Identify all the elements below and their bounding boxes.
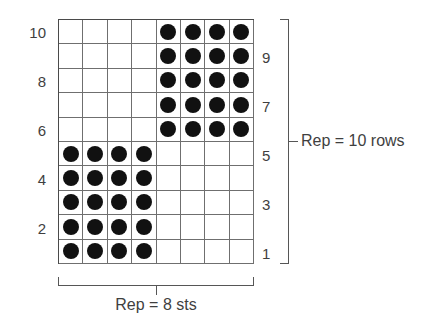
row-number-right-1: 1 bbox=[262, 246, 270, 261]
grid-cell bbox=[230, 240, 254, 264]
grid-cell bbox=[108, 118, 132, 142]
row-number-right-3: 3 bbox=[262, 197, 270, 212]
grid-cell-filled bbox=[157, 93, 181, 117]
grid-cell bbox=[157, 142, 181, 166]
grid-cell-filled bbox=[132, 240, 156, 264]
grid-cell bbox=[108, 69, 132, 93]
grid-cell-filled bbox=[205, 93, 229, 117]
sts-repeat-label: Rep = 8 sts bbox=[58, 297, 254, 313]
grid-cell bbox=[230, 191, 254, 215]
row-number-left-6: 6 bbox=[38, 123, 46, 138]
grid-cell-filled bbox=[59, 142, 83, 166]
grid-cell-filled bbox=[59, 191, 83, 215]
grid-cell-filled bbox=[205, 69, 229, 93]
grid-cell-filled bbox=[230, 93, 254, 117]
grid-cell-filled bbox=[230, 44, 254, 68]
rows-repeat-bracket bbox=[280, 19, 289, 264]
grid-cell-filled bbox=[230, 20, 254, 44]
grid-cell bbox=[205, 215, 229, 239]
grid-cell bbox=[205, 142, 229, 166]
row-number-left-8: 8 bbox=[38, 74, 46, 89]
grid-cell bbox=[157, 166, 181, 190]
row-number-left-4: 4 bbox=[38, 172, 46, 187]
grid-cell-filled bbox=[108, 240, 132, 264]
grid-cell bbox=[59, 118, 83, 142]
grid-cell-filled bbox=[132, 191, 156, 215]
grid-cell bbox=[83, 69, 107, 93]
grid-cell-filled bbox=[230, 118, 254, 142]
grid-cell bbox=[59, 20, 83, 44]
grid-cell-filled bbox=[181, 93, 205, 117]
knitting-chart-figure: 10 8 6 4 2 9 7 5 3 1 Rep = 10 rows Rep =… bbox=[0, 0, 435, 328]
grid-cell-filled bbox=[108, 166, 132, 190]
grid-cell-filled bbox=[83, 191, 107, 215]
grid-cell bbox=[132, 44, 156, 68]
grid-cell bbox=[132, 118, 156, 142]
grid-cell bbox=[83, 93, 107, 117]
rows-repeat-bracket-tick bbox=[289, 141, 298, 142]
grid-cell-filled bbox=[205, 20, 229, 44]
grid-cell-filled bbox=[132, 166, 156, 190]
grid-cell-filled bbox=[205, 118, 229, 142]
grid-cell-filled bbox=[181, 69, 205, 93]
grid-cell-filled bbox=[83, 142, 107, 166]
grid-cell-filled bbox=[157, 20, 181, 44]
row-number-left-10: 10 bbox=[29, 25, 46, 40]
grid-cell-filled bbox=[83, 240, 107, 264]
grid-cell-filled bbox=[157, 44, 181, 68]
grid-cell-filled bbox=[108, 142, 132, 166]
sts-repeat-bracket bbox=[58, 277, 254, 286]
grid-cell bbox=[230, 142, 254, 166]
grid-cell bbox=[157, 240, 181, 264]
grid-cell-filled bbox=[181, 44, 205, 68]
grid-cell bbox=[108, 44, 132, 68]
sts-repeat-bracket-tick bbox=[156, 286, 157, 295]
grid-cell-filled bbox=[59, 240, 83, 264]
grid-cell-filled bbox=[108, 191, 132, 215]
grid-cell bbox=[132, 93, 156, 117]
grid-cell bbox=[83, 20, 107, 44]
grid-cell-filled bbox=[132, 142, 156, 166]
row-number-right-7: 7 bbox=[262, 99, 270, 114]
grid-cell bbox=[205, 166, 229, 190]
grid-cell bbox=[181, 166, 205, 190]
grid-cell-filled bbox=[59, 215, 83, 239]
grid-cell bbox=[181, 142, 205, 166]
row-number-right-9: 9 bbox=[262, 50, 270, 65]
grid-cell bbox=[157, 215, 181, 239]
row-number-left-2: 2 bbox=[38, 221, 46, 236]
pattern-grid bbox=[58, 19, 254, 264]
grid-cell bbox=[83, 44, 107, 68]
grid-cell-filled bbox=[181, 118, 205, 142]
grid-cell bbox=[205, 240, 229, 264]
grid-cell-filled bbox=[132, 215, 156, 239]
grid-cell-filled bbox=[205, 44, 229, 68]
grid-cell bbox=[205, 191, 229, 215]
grid-cell bbox=[59, 44, 83, 68]
grid-cell-filled bbox=[108, 215, 132, 239]
grid-cell bbox=[157, 191, 181, 215]
grid-cell-filled bbox=[83, 166, 107, 190]
grid-cell-filled bbox=[181, 20, 205, 44]
grid-cell bbox=[108, 93, 132, 117]
grid-cell-filled bbox=[83, 215, 107, 239]
grid-cell bbox=[132, 20, 156, 44]
row-number-right-5: 5 bbox=[262, 148, 270, 163]
grid-cell-filled bbox=[157, 69, 181, 93]
grid-cell-filled bbox=[59, 166, 83, 190]
grid-cell bbox=[230, 166, 254, 190]
grid-cell bbox=[181, 240, 205, 264]
grid-cell bbox=[230, 215, 254, 239]
grid-cell bbox=[59, 69, 83, 93]
grid-cell-filled bbox=[230, 69, 254, 93]
grid-cell bbox=[83, 118, 107, 142]
grid-cell bbox=[108, 20, 132, 44]
grid-cell-filled bbox=[157, 118, 181, 142]
grid-cell bbox=[59, 93, 83, 117]
grid-cell bbox=[132, 69, 156, 93]
grid-cell bbox=[181, 215, 205, 239]
grid-cell bbox=[181, 191, 205, 215]
rows-repeat-label: Rep = 10 rows bbox=[301, 133, 405, 149]
